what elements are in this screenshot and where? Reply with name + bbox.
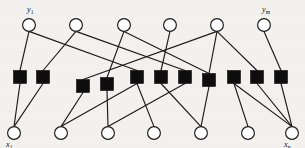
edge-c7-x3: [108, 84, 185, 127]
input-node-x4: [148, 127, 161, 140]
output-node-y2: [70, 19, 83, 32]
output-node-y3: [118, 19, 131, 32]
check-node-c6: [155, 71, 168, 84]
check-node-c5: [131, 71, 144, 84]
edge-c4-x3: [107, 91, 108, 127]
edge-group-bottom: [14, 84, 292, 127]
edge-c9-x6: [234, 84, 248, 127]
edge-y3-c4: [107, 31, 124, 77]
input-node-x6: [242, 127, 255, 140]
input-node-x3: [102, 127, 115, 140]
edge-y1-c5: [29, 31, 137, 70]
check-node-c8: [203, 74, 216, 87]
edge-ym-c11: [264, 31, 281, 70]
check-node-c7: [179, 71, 192, 84]
input-node-x2: [55, 127, 68, 140]
tanner-graph-figure: y1ymx1xn: [0, 0, 305, 148]
edge-c8-x5: [201, 87, 209, 127]
check-node-c9: [228, 71, 241, 84]
label-top-right: ym: [261, 5, 271, 15]
edge-c2-x1: [14, 84, 43, 127]
edge-c3-x2: [61, 93, 83, 127]
input-node-xn: [286, 127, 299, 140]
edge-c1-x1: [14, 84, 20, 127]
label-top-left: y1: [26, 5, 34, 15]
edge-c5-x2: [61, 84, 137, 127]
check-node-c4: [101, 78, 114, 91]
edge-y5-c10: [217, 31, 257, 70]
output-node-ym: [258, 19, 271, 32]
check-node-c2: [37, 71, 50, 84]
input-node-x1: [8, 127, 21, 140]
bottom-node-group: [8, 127, 299, 140]
check-node-group: [14, 71, 288, 93]
top-node-group: [23, 19, 271, 32]
edge-y5-c3: [83, 31, 217, 79]
edge-c6-x5: [161, 84, 201, 127]
output-node-y1: [23, 19, 36, 32]
check-node-c1: [14, 71, 27, 84]
check-node-c11: [275, 71, 288, 84]
edge-group-top: [20, 31, 281, 79]
edge-c9-xn: [234, 84, 292, 127]
graph-canvas: y1ymx1xn: [0, 0, 305, 148]
label-bottom-right: xn: [283, 140, 291, 148]
output-node-y5: [211, 19, 224, 32]
output-node-y4: [164, 19, 177, 32]
check-node-c3: [77, 80, 90, 93]
edge-y3-c8: [124, 31, 209, 73]
edge-y2-c2: [43, 31, 76, 70]
input-node-x5: [195, 127, 208, 140]
edge-y5-c8: [209, 31, 217, 73]
edge-y1-c1: [20, 31, 29, 70]
check-node-c10: [251, 71, 264, 84]
label-bottom-left: x1: [5, 140, 13, 148]
